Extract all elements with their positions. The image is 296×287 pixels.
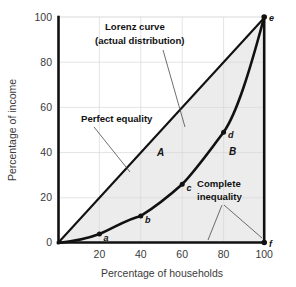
complete-inequality-annotation-line1: Complete xyxy=(197,178,241,189)
point-f-dot xyxy=(261,240,267,246)
y-tick-100: 100 xyxy=(34,11,52,23)
point-e-dot xyxy=(261,14,267,20)
point-d-label: d xyxy=(228,130,234,140)
lorenz-annotation-line1: Lorenz curve xyxy=(105,21,165,32)
region-b-label: B xyxy=(229,146,236,157)
lorenz-curve-figure: a b c d e f A B Lorenz curve (actual dis… xyxy=(0,0,296,287)
y-tick-20: 20 xyxy=(40,191,52,203)
x-tick-60: 60 xyxy=(176,248,188,260)
x-tick-80: 80 xyxy=(218,248,230,260)
perfect-equality-annotation: Perfect equality xyxy=(81,113,153,124)
x-axis-title: Percentage of households xyxy=(101,267,223,279)
y-axis-title: Percentage of income xyxy=(6,79,18,181)
point-c-dot xyxy=(180,182,185,187)
point-a-label: a xyxy=(104,233,109,243)
point-d-dot xyxy=(221,130,226,135)
x-tick-40: 40 xyxy=(135,248,147,260)
y-tick-80: 80 xyxy=(40,56,52,68)
point-b-dot xyxy=(138,213,143,218)
point-e-label: e xyxy=(269,13,274,23)
region-a-label: A xyxy=(156,147,164,158)
point-a-dot xyxy=(97,232,102,237)
complete-inequality-annotation-line2: inequality xyxy=(197,191,242,202)
y-tick-0: 0 xyxy=(46,236,52,248)
chart-canvas: a b c d e f A B Lorenz curve (actual dis… xyxy=(0,0,296,287)
point-f-label: f xyxy=(269,239,273,249)
point-c-label: c xyxy=(187,183,192,193)
x-tick-100: 100 xyxy=(255,248,273,260)
lorenz-annotation-line2: (actual distribution) xyxy=(95,35,185,46)
y-tick-60: 60 xyxy=(40,101,52,113)
point-b-label: b xyxy=(145,215,151,225)
x-tick-20: 20 xyxy=(94,248,106,260)
y-tick-40: 40 xyxy=(40,146,52,158)
